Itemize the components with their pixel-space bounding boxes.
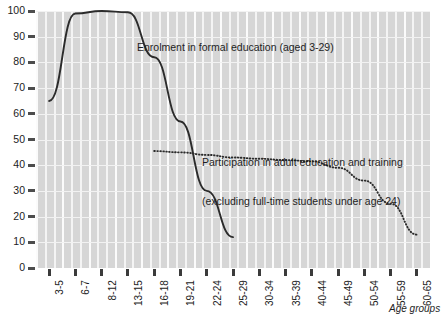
x-tick-label: 50-54 [369,280,380,306]
x-tick-label: 25-29 [238,280,249,306]
x-tick-label: 13-15 [133,280,144,306]
horizontal-gridline [36,242,430,243]
x-tick-mark [232,269,235,276]
x-tick-mark [363,269,366,276]
x-tick-label: 30-34 [264,280,275,306]
x-tick-mark [258,269,261,276]
x-tick-label: 6-7 [80,280,91,295]
chart-container: 0102030405060708090100 3-56-78-1213-1516… [0,0,446,323]
x-tick-label: 22-24 [212,280,223,306]
x-tick-mark [415,269,418,276]
y-tick-mark [28,35,35,38]
x-tick-label: 16-18 [159,280,170,306]
annotation-participation: Participation in adult education and tra… [202,130,403,234]
x-tick-mark [153,269,156,276]
y-tick-mark [28,61,35,64]
x-tick-label: 40-44 [317,280,328,306]
x-axis-title: Age groups [389,303,440,314]
x-tick-label: 3-5 [54,280,65,295]
horizontal-gridline [36,114,430,115]
x-tick-label: 35-39 [291,280,302,306]
annotation-participation-line1: Participation in adult education and tra… [202,156,403,169]
x-tick-label: 19-21 [185,280,196,306]
x-tick-mark [100,269,103,276]
x-tick-mark [126,269,129,276]
y-tick-mark [28,87,35,90]
y-tick-mark [28,112,35,115]
page-fragment-right [120,0,122,7]
y-tick-label: 80 [13,55,25,67]
x-tick-label: 8-12 [107,280,118,300]
y-tick-label: 40 [13,158,25,170]
y-tick-mark [28,215,35,218]
y-tick-mark [28,189,35,192]
x-tick-mark [337,269,340,276]
horizontal-gridline [36,37,430,38]
y-tick-mark [28,267,35,270]
horizontal-gridline [36,88,430,89]
y-tick-label: 60 [13,107,25,119]
y-tick-label: 90 [13,30,25,42]
x-tick-mark [74,269,77,276]
horizontal-gridline [36,62,430,63]
y-tick-mark [28,164,35,167]
page-fragment-left [60,0,62,7]
y-tick-label: 20 [13,210,25,222]
y-tick-label: 70 [13,81,25,93]
y-tick-mark [28,241,35,244]
y-tick-label: 0 [19,261,25,273]
y-tick-label: 100 [7,4,25,16]
annotation-participation-line2: (excluding full-time students under age … [202,195,403,208]
x-tick-mark [310,269,313,276]
annotation-enrolment: Enrolment in formal education (aged 3-29… [137,41,334,54]
y-tick-label: 50 [13,133,25,145]
x-tick-mark [389,269,392,276]
horizontal-gridline [36,11,430,12]
x-tick-mark [179,269,182,276]
y-tick-label: 10 [13,235,25,247]
x-tick-mark [205,269,208,276]
x-tick-label: 45-49 [343,280,354,306]
x-tick-mark [284,269,287,276]
y-tick-label: 30 [13,184,25,196]
y-tick-mark [28,138,35,141]
x-tick-mark [48,269,51,276]
y-tick-mark [28,10,35,13]
